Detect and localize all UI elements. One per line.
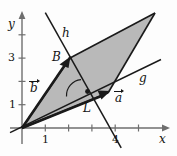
right-angle-dot xyxy=(85,89,90,94)
point-L-label: L xyxy=(83,102,91,114)
vector-b-letter: b xyxy=(30,81,38,95)
figure-canvas xyxy=(0,0,177,156)
y-axis-label: y xyxy=(8,18,15,30)
vector-a-arrow-accent xyxy=(114,89,124,93)
vector-geometry-figure: y x 3 1 1 4 h g B L b a xyxy=(0,0,177,156)
vector-b-arrow-accent xyxy=(29,79,40,83)
y-tick-label-1: 1 xyxy=(9,99,16,110)
x-axis-label: x xyxy=(159,133,166,145)
x-axis-arrowhead xyxy=(162,125,170,132)
y-tick-label-3: 3 xyxy=(8,52,15,63)
point-B-marker xyxy=(68,56,71,59)
x-tick-label-4: 4 xyxy=(112,134,119,145)
line-g-label: g xyxy=(139,72,147,84)
point-B-label: B xyxy=(52,51,61,63)
y-axis-arrowhead xyxy=(19,11,26,19)
vector-b-label: b xyxy=(30,82,38,94)
line-h-label: h xyxy=(62,27,70,39)
x-tick-label-1: 1 xyxy=(42,134,49,145)
vector-a-label: a xyxy=(115,92,122,104)
vector-a-letter: a xyxy=(115,91,122,105)
